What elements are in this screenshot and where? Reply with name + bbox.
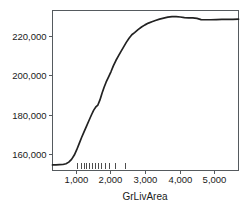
chart-canvas: 160,000180,000200,000220,000 1,0002,0003… bbox=[0, 0, 249, 212]
x-tick-label: 1,000 bbox=[65, 174, 89, 185]
x-axis-ticks bbox=[77, 170, 215, 174]
x-axis-tick-labels: 1,0002,0003,0004,0005,000 bbox=[65, 174, 227, 185]
x-tick-label: 2,000 bbox=[99, 174, 123, 185]
y-axis-tick-labels: 160,000180,000200,000220,000 bbox=[12, 31, 46, 160]
y-tick-label: 220,000 bbox=[12, 31, 46, 42]
y-tick-label: 180,000 bbox=[12, 110, 46, 121]
partial-dependence-curve bbox=[53, 17, 239, 165]
x-tick-label: 5,000 bbox=[203, 174, 227, 185]
y-tick-label: 160,000 bbox=[12, 149, 46, 160]
rug-marks bbox=[78, 163, 126, 169]
partial-dependence-plot: 160,000180,000200,000220,000 1,0002,0003… bbox=[0, 0, 249, 212]
y-tick-label: 200,000 bbox=[12, 70, 46, 81]
plot-frame bbox=[53, 11, 239, 171]
y-axis-ticks bbox=[49, 37, 53, 155]
x-tick-label: 3,000 bbox=[134, 174, 158, 185]
x-axis-title: GrLivArea bbox=[122, 191, 167, 202]
x-tick-label: 4,000 bbox=[169, 174, 193, 185]
